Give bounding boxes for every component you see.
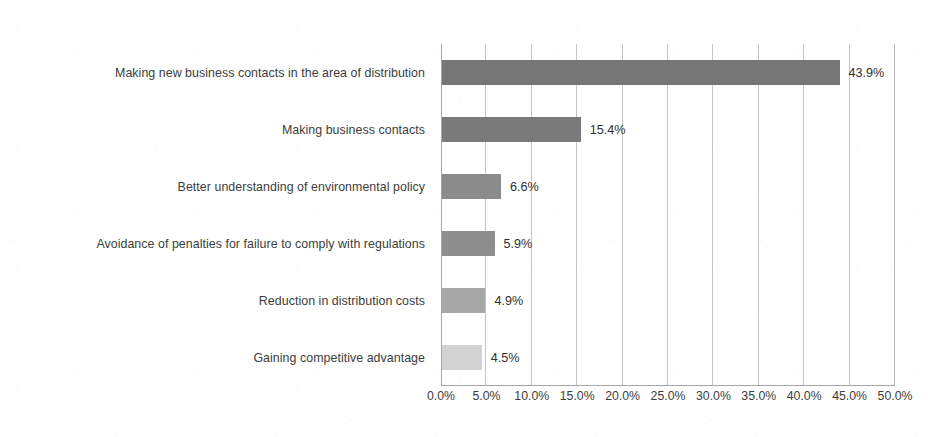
x-tick-label: 30.0% [696,389,731,404]
value-axis: 0.0%5.0%10.0%15.0%20.0%25.0%30.0%35.0%40… [441,389,895,409]
x-tick-label: 0.0% [427,389,455,404]
category-label: Making business contacts [0,123,425,137]
category-label: Reduction in distribution costs [0,294,425,308]
category-label: Avoidance of penalties for failure to co… [0,237,425,251]
x-tick-label: 40.0% [787,389,822,404]
bar-chart: Making new business contacts in the area… [0,0,952,437]
x-tick-label: 45.0% [832,389,867,404]
category-label: Making new business contacts in the area… [0,66,425,80]
x-tick-label: 5.0% [472,389,500,404]
x-tick-label: 35.0% [741,389,776,404]
category-label: Gaining competitive advantage [0,351,425,365]
x-tick-label: 20.0% [605,389,640,404]
category-label: Better understanding of environmental po… [0,180,425,194]
plot-frame [441,44,895,386]
x-tick-label: 25.0% [651,389,686,404]
x-tick-label: 10.0% [514,389,549,404]
category-axis: Making new business contacts in the area… [0,44,433,386]
x-tick-label: 50.0% [878,389,913,404]
x-tick-label: 15.0% [560,389,595,404]
plot-area: 43.9%15.4%6.6%5.9%4.9%4.5% [441,44,895,386]
